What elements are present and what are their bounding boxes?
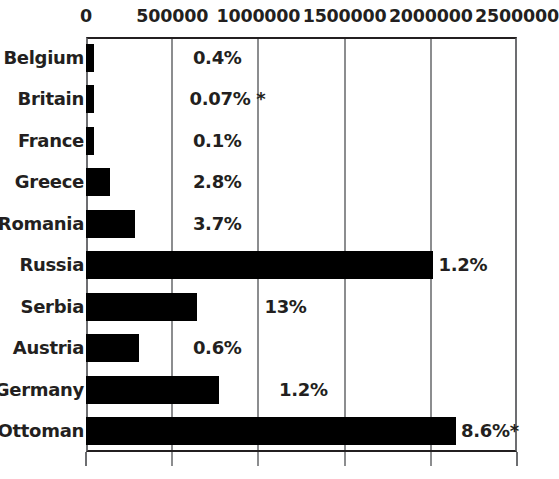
- x-axis-tick-label: 2500000: [475, 6, 559, 26]
- bar-value-label: 0.07% *: [189, 88, 265, 110]
- bar-row: Germany1.2%: [0, 369, 551, 411]
- bar-value-label: 0.4%: [193, 47, 242, 69]
- bar-value-label: 1.2%: [439, 254, 488, 276]
- x-axis-tick-label: 500000: [136, 6, 208, 26]
- category-label: Russia: [19, 254, 84, 276]
- bar: [86, 210, 135, 238]
- category-label: Britain: [18, 88, 84, 110]
- bar: [86, 44, 94, 72]
- bar-value-label: 8.6%*: [461, 420, 519, 442]
- bar-value-label: 1.2%: [279, 379, 328, 401]
- bar-value-label: 2.8%: [193, 171, 242, 193]
- bar-row: Austria0.6%: [0, 328, 551, 370]
- bar: [86, 127, 94, 155]
- bar-row: Britain0.07% *: [0, 79, 551, 121]
- tick-mark: [85, 452, 87, 466]
- tick-mark: [516, 452, 518, 466]
- x-axis-tick-label: 2000000: [389, 6, 473, 26]
- tick-mark: [430, 452, 432, 466]
- bar-value-label: 13%: [264, 296, 306, 318]
- bar: [86, 85, 94, 113]
- bar-row: Russia1.2%: [0, 245, 551, 287]
- bar-row: Greece2.8%: [0, 162, 551, 204]
- tick-mark: [344, 452, 346, 466]
- bar: [86, 417, 456, 445]
- bar-row: Serbia13%: [0, 286, 551, 328]
- bar-value-label: 0.1%: [193, 130, 242, 152]
- category-label: Romania: [0, 213, 84, 235]
- bar: [86, 376, 219, 404]
- category-label: Belgium: [3, 47, 84, 69]
- bar: [86, 168, 110, 196]
- category-label: Ottoman: [0, 420, 84, 442]
- bar: [86, 293, 197, 321]
- bar-row: France0.1%: [0, 120, 551, 162]
- category-label: Germany: [0, 379, 84, 401]
- x-axis-tick-label: 1000000: [216, 6, 300, 26]
- category-label: Serbia: [21, 296, 84, 318]
- bar: [86, 251, 433, 279]
- x-axis-tick-label: 1500000: [303, 6, 387, 26]
- category-label: Greece: [15, 171, 84, 193]
- bar-row: Belgium0.4%: [0, 37, 551, 79]
- bar: [86, 334, 139, 362]
- bar-row: Romania3.7%: [0, 203, 551, 245]
- category-label: France: [18, 130, 84, 152]
- bar-value-label: 0.6%: [193, 337, 242, 359]
- bar-row: Ottoman8.6%*: [0, 411, 551, 453]
- bar-value-label: 3.7%: [193, 213, 242, 235]
- tick-mark: [257, 452, 259, 466]
- x-axis-tick-label: 0: [80, 6, 92, 26]
- tick-mark: [171, 452, 173, 466]
- category-label: Austria: [13, 337, 84, 359]
